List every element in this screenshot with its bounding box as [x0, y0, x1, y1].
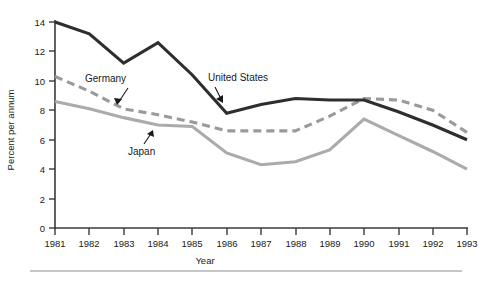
annotation-united-states: United States	[208, 72, 268, 103]
y-tick-label-0: 0	[40, 223, 45, 234]
x-tick-label-1982: 1982	[78, 238, 99, 249]
y-tick-label-12: 12	[34, 46, 45, 57]
annotation-label-germany: Germany	[85, 73, 126, 84]
y-tick-label-6: 6	[40, 135, 45, 146]
x-tick-label-1993: 1993	[456, 238, 477, 249]
x-tick-label-1990: 1990	[353, 238, 374, 249]
x-tick-label-1991: 1991	[388, 238, 409, 249]
y-tick-label-4: 4	[40, 164, 45, 175]
x-tick-label-1988: 1988	[285, 238, 306, 249]
series-line-japan	[55, 101, 467, 169]
annotation-japan: Japan	[128, 130, 155, 157]
x-tick-label-1989: 1989	[319, 238, 340, 249]
x-tick-label-1983: 1983	[113, 238, 134, 249]
arrow-head-icon	[147, 130, 154, 137]
line-chart: Percent per annum 14 12 10 8 6 4 2 0	[0, 0, 492, 283]
annotation-label-japan: Japan	[128, 146, 155, 157]
series-group	[55, 22, 467, 169]
y-tick-label-8: 8	[40, 105, 45, 116]
chart-figure: Percent per annum 14 12 10 8 6 4 2 0	[0, 0, 492, 283]
annotation-label-united-states: United States	[208, 72, 268, 83]
y-axis: 14 12 10 8 6 4 2 0	[34, 17, 55, 234]
x-axis: 1981 1982 1983 1984 1985 1986 1987 1988 …	[44, 228, 477, 266]
x-tick-label-1987: 1987	[250, 238, 271, 249]
y-tick-label-10: 10	[34, 76, 45, 87]
y-axis-title: Percent per annum	[5, 90, 16, 171]
x-axis-title: Year	[195, 255, 214, 266]
y-tick-label-2: 2	[40, 194, 45, 205]
x-tick-label-1985: 1985	[181, 238, 202, 249]
x-tick-label-1981: 1981	[44, 238, 65, 249]
x-tick-label-1986: 1986	[216, 238, 237, 249]
y-tick-label-14: 14	[34, 17, 45, 28]
x-tick-label-1992: 1992	[422, 238, 443, 249]
x-tick-label-1984: 1984	[147, 238, 168, 249]
